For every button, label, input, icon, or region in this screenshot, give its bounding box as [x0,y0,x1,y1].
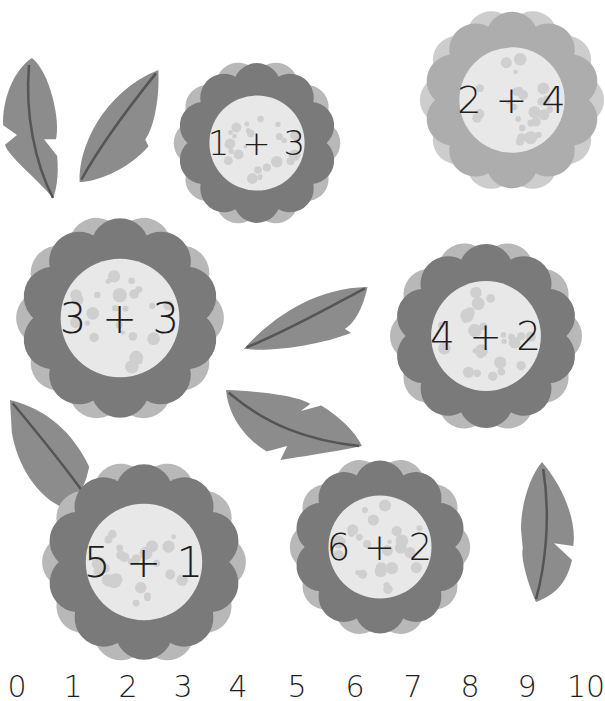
flower-expression: 1 + 3 [172,123,342,163]
number-line-value: 9 [517,672,536,701]
number-line-value: 4 [228,672,247,701]
number-line-value: 1 [63,672,82,701]
flower-f6[interactable]: 6 + 2 [288,455,472,639]
number-line-value: 2 [118,672,137,701]
leaf-2[interactable] [78,70,160,182]
flower-f3[interactable]: 3 + 3 [14,212,226,424]
flower-expression: 2 + 4 [418,78,605,122]
number-line: 012345678910 [0,672,605,701]
leaf-icon [226,390,362,460]
flower-f4[interactable]: 4 + 2 [388,238,584,434]
leaf-icon [2,58,62,198]
leaf-3[interactable] [244,284,370,356]
leaf-icon [78,70,160,182]
number-line-value: 5 [287,672,306,701]
leaf-1[interactable] [2,58,62,198]
leaf-icon [518,462,578,602]
number-line-value: 6 [345,672,364,701]
flower-expression: 6 + 2 [288,526,472,569]
number-line-value: 3 [173,672,192,701]
leaf-shape [226,390,362,460]
number-line-value: 10 [567,672,605,701]
flower-expression: 4 + 2 [388,314,584,359]
flower-f1[interactable]: 1 + 3 [172,58,342,228]
number-line-value: 7 [403,672,422,701]
leaf-6[interactable] [518,462,578,602]
number-line-value: 8 [460,672,479,701]
leaf-icon [244,284,370,356]
leaf-4[interactable] [226,390,362,460]
flower-expression: 3 + 3 [14,294,226,343]
number-line-value: 0 [7,672,26,701]
flower-f5[interactable]: 5 + 1 [40,458,248,666]
flower-expression: 5 + 1 [40,538,248,587]
flower-f2[interactable]: 2 + 4 [418,6,605,194]
